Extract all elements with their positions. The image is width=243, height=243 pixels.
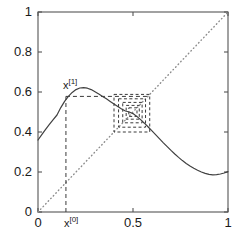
y-tick-label-5: 1 (0, 5, 32, 18)
x-tick-label-0: 0 (18, 216, 58, 229)
y-tick-label-1: 0.2 (0, 165, 32, 178)
chart-canvas (0, 0, 243, 243)
x1-sup: [1] (68, 77, 77, 86)
cobweb-annotations (66, 94, 150, 212)
x-tick-label-2: 1 (208, 216, 243, 229)
map-function-curve (38, 88, 228, 175)
y-tick-label-3: 0.6 (0, 85, 32, 98)
x0-point-label: x[0] (64, 216, 78, 229)
x1-point-label: x[1] (63, 78, 77, 91)
x-tick-label-1: 0.5 (113, 216, 153, 229)
y-tick-label-2: 0.4 (0, 125, 32, 138)
identity-line (38, 12, 228, 212)
x0-sup: [0] (69, 215, 78, 224)
y-tick-label-4: 0.8 (0, 45, 32, 58)
cobweb-plot-figure: 0 0.2 0.4 0.6 0.8 1 0 0.5 1 x[1] x[0] (0, 0, 243, 243)
